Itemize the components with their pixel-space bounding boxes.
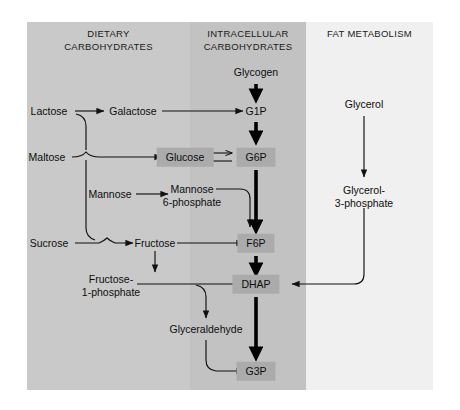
node-glycerol: Glycerol <box>345 98 384 111</box>
node-g6p: G6P <box>236 148 275 167</box>
node-maltose: Maltose <box>29 151 66 164</box>
column-heading-intracellular-carbohydrates: INTRACELLULAR CARBOHYDRATES <box>190 27 306 53</box>
node-g3p: G3P <box>236 362 275 381</box>
metabolic-pathway-diagram: DIETARY CARBOHYDRATES INTRACELLULAR CARB… <box>0 0 460 410</box>
node-mannose: Mannose <box>88 188 131 201</box>
node-dhap: DHAP <box>232 275 279 294</box>
node-lactose: Lactose <box>31 105 68 118</box>
node-f6p: F6P <box>237 234 274 253</box>
node-glyceraldehyde: Glyceraldehyde <box>170 323 243 336</box>
node-glycerol-3-phosphate: Glycerol- 3-phosphate <box>335 184 393 209</box>
node-glycogen: Glycogen <box>234 66 278 79</box>
node-sucrose: Sucrose <box>30 237 69 250</box>
node-mannose-6-phosphate: Mannose 6-phosphate <box>163 183 221 208</box>
node-g1p: G1P <box>245 105 266 118</box>
column-heading-fat-metabolism: FAT METABOLISM <box>306 27 433 40</box>
node-fructose: Fructose <box>135 237 176 250</box>
column-heading-dietary-carbohydrates: DIETARY CARBOHYDRATES <box>27 27 190 53</box>
node-glucose: Glucose <box>157 148 214 167</box>
node-galactose: Galactose <box>109 105 156 118</box>
node-fructose-1-phosphate: Fructose- 1-phosphate <box>82 273 140 298</box>
